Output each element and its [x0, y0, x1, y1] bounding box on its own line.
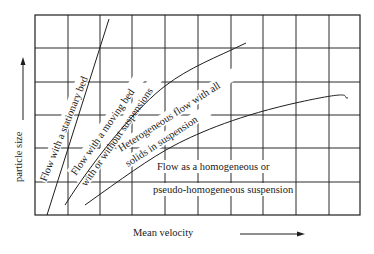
x-axis-arrow-icon: [240, 232, 305, 237]
flow-regime-diagram: Flow with a stationary bed Flow with a m…: [0, 0, 374, 254]
diagram-canvas: Flow with a stationary bed Flow with a m…: [0, 0, 374, 254]
y-axis-label: particle size: [13, 131, 24, 182]
x-axis-label: Mean velocity: [133, 227, 194, 238]
label-homogeneous-line2: pseudo-homogeneous suspension: [153, 184, 294, 195]
label-homogeneous-line1: Flow as a homogeneous or: [157, 161, 270, 172]
y-axis-arrow-icon: [21, 57, 26, 120]
